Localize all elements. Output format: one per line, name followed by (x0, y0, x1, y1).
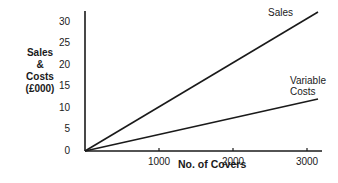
y-tick-10: 10 (59, 102, 71, 113)
y-tick-20: 20 (59, 59, 71, 70)
variable-costs-line-label: Variable Costs (290, 75, 338, 97)
x-axis-label: No. of Covers (178, 158, 246, 170)
y-tick-25: 25 (59, 37, 71, 48)
y-tick-0: 0 (64, 145, 70, 156)
sales-line-label: Sales (268, 7, 293, 18)
variable-costs-line (85, 99, 318, 151)
x-tick-3000: 3000 (296, 156, 319, 167)
y-tick-30: 30 (59, 16, 71, 27)
sales-line (85, 12, 318, 151)
y-tick-5: 5 (64, 123, 70, 134)
y-tick-15: 15 (59, 80, 71, 91)
chart-plot-area: 30 25 20 15 10 5 0 1000 2000 3000 (0, 0, 338, 183)
x-tick-1000: 1000 (148, 156, 171, 167)
